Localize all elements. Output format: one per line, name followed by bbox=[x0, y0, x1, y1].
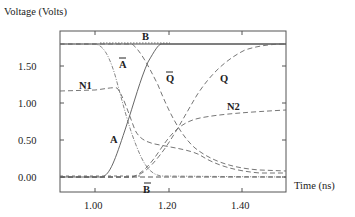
x-tick-labels: 1.00 1.20 1.40 bbox=[84, 200, 249, 211]
curve-a-bar bbox=[60, 44, 286, 177]
curve-q bbox=[60, 44, 286, 177]
label-q: Q bbox=[220, 73, 228, 84]
x-tick-label: 1.20 bbox=[158, 200, 176, 211]
label-b-bar: B bbox=[143, 184, 150, 195]
curve-a bbox=[60, 44, 286, 177]
curve-labels: B A Q Q N1 N2 A B bbox=[79, 31, 240, 195]
y-tick-label: 0.50 bbox=[18, 135, 36, 146]
x-tick-label: 1.40 bbox=[231, 200, 249, 211]
y-tick-label: 1.50 bbox=[18, 61, 36, 72]
voltage-time-chart: 0.00 0.50 1.00 1.50 1.00 1.20 1.40 B A Q bbox=[0, 0, 355, 217]
curve-q-bar bbox=[60, 44, 286, 171]
label-a-bar: A bbox=[119, 59, 127, 70]
y-tick-label: 0.00 bbox=[18, 172, 36, 183]
plot-frame bbox=[60, 31, 286, 192]
label-b: B bbox=[142, 31, 149, 42]
x-axis-ticks bbox=[95, 31, 242, 192]
y-tick-labels: 0.00 0.50 1.00 1.50 bbox=[18, 61, 36, 183]
curve-n1 bbox=[60, 88, 286, 173]
y-tick-label: 1.00 bbox=[18, 98, 36, 109]
x-tick-label: 1.00 bbox=[84, 200, 102, 211]
label-a: A bbox=[110, 134, 118, 145]
label-n2: N2 bbox=[227, 101, 240, 112]
curve-n2 bbox=[60, 110, 286, 177]
label-n1: N1 bbox=[79, 80, 92, 91]
label-q-bar: Q bbox=[166, 73, 174, 84]
